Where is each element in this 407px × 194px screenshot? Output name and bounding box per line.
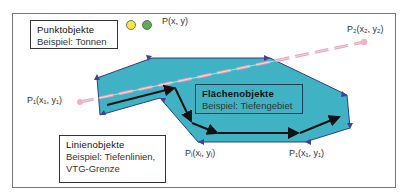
dashed-line-end-point [361,39,367,45]
point-yellow [127,21,136,30]
label-p2-right: P₂(x₂, y₂) [347,24,383,34]
point-label: P(x, y) [162,16,188,26]
line-objects-example-2: VTG-Grenze [66,163,159,175]
area-objects-box: Flächenobjekte Beispiel: Tiefengebiet [195,84,303,114]
label-pi-bottom: Pᵢ(xᵢ, yᵢ) [185,148,215,158]
line-objects-example-1: Beispiel: Tiefenlinien, [66,151,159,163]
point-objects-title: Punktobjekte [37,24,111,36]
line-objects-title: Linienobjekte [66,139,159,151]
point-objects-box: Punktobjekte Beispiel: Tonnen [30,20,118,49]
label-p1-bottom: P₁(x₁, y₁) [289,148,324,158]
dashed-line-start-point [77,99,83,105]
label-p1-left: P₁(x₁, y₁) [27,95,62,105]
point-objects-example: Beispiel: Tonnen [37,36,111,48]
area-objects-example: Beispiel: Tiefengebiet [202,100,296,112]
point-green [143,21,152,30]
line-objects-box: Linienobjekte Beispiel: Tiefenlinien, VT… [59,135,166,183]
area-objects-title: Flächenobjekte [202,88,296,100]
